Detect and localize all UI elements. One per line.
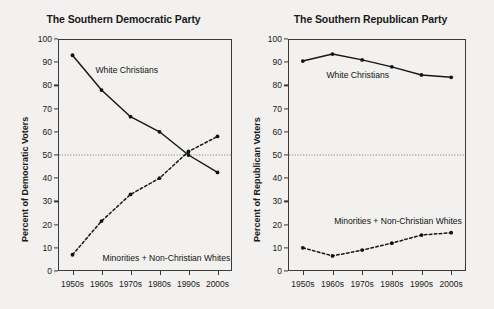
data-point (360, 248, 364, 252)
data-point (390, 65, 394, 69)
data-point (216, 135, 220, 139)
data-point (100, 219, 104, 223)
data-point (331, 52, 335, 56)
series-label-minorities: Minorities + Non-Christian Whites (103, 253, 231, 263)
data-point (449, 75, 453, 79)
data-point (100, 88, 104, 92)
data-point (420, 73, 424, 77)
data-point (360, 58, 364, 62)
data-point (216, 171, 220, 175)
series-line-minorities (303, 233, 451, 256)
data-point (187, 153, 191, 157)
series-label-minorities: Minorities + Non-Christian Whites (334, 216, 462, 226)
data-point (331, 254, 335, 258)
series-overlay (247, 0, 494, 309)
chart-panel-democratic: The Southern Democratic PartyPercent of … (0, 0, 247, 309)
series-line-minorities (73, 136, 218, 254)
data-point (71, 253, 75, 257)
series-label-white-christians: White Christians (327, 70, 390, 80)
data-point (158, 130, 162, 134)
series-label-white-christians: White Christians (96, 65, 159, 75)
data-point (187, 150, 191, 154)
data-point (129, 193, 133, 197)
data-point (129, 115, 133, 119)
data-point (390, 241, 394, 245)
figure-panels: The Southern Democratic PartyPercent of … (0, 0, 494, 309)
data-point (301, 246, 305, 250)
chart-panel-republican: The Southern Republican PartyPercent of … (247, 0, 494, 309)
data-point (301, 59, 305, 63)
data-point (71, 53, 75, 57)
data-point (158, 176, 162, 180)
data-point (449, 231, 453, 235)
data-point (420, 233, 424, 237)
